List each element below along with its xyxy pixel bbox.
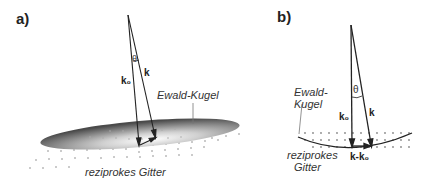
vector-k0-label: k₀ <box>339 111 349 122</box>
reciprocal-lattice-label-line2: Gitter <box>294 161 321 173</box>
theta-symbol: θ <box>132 54 137 64</box>
vector-k-label: k <box>369 107 375 118</box>
panel-a-tag: a) <box>16 10 29 27</box>
vector-k0-label: k₀ <box>121 75 131 86</box>
panel-b: b) Ewald- Kugel reziprokes Gitter θ k₀ k… <box>250 0 430 183</box>
panel-b-tag: b) <box>277 8 291 25</box>
reciprocal-lattice-label: reziprokes Gitter <box>85 166 166 178</box>
theta-symbol: θ <box>353 84 359 95</box>
ewald-sphere-2d-diagram <box>250 0 430 183</box>
ewald-sphere-label: Ewald-Kugel <box>157 89 219 101</box>
ewald-sphere-label-line1: Ewald- <box>294 86 328 98</box>
panel-a: a) Ewald-Kugel reziprokes Gitter θ k₀ k <box>0 0 250 183</box>
difference-vector-label: k-k₀ <box>350 151 369 162</box>
ewald-sphere-label-line2: Kugel <box>294 98 322 110</box>
reciprocal-lattice-label-line1: reziprokes <box>287 149 338 161</box>
vector-k-label: k <box>144 67 150 78</box>
ewald-sphere-disk <box>39 112 241 155</box>
